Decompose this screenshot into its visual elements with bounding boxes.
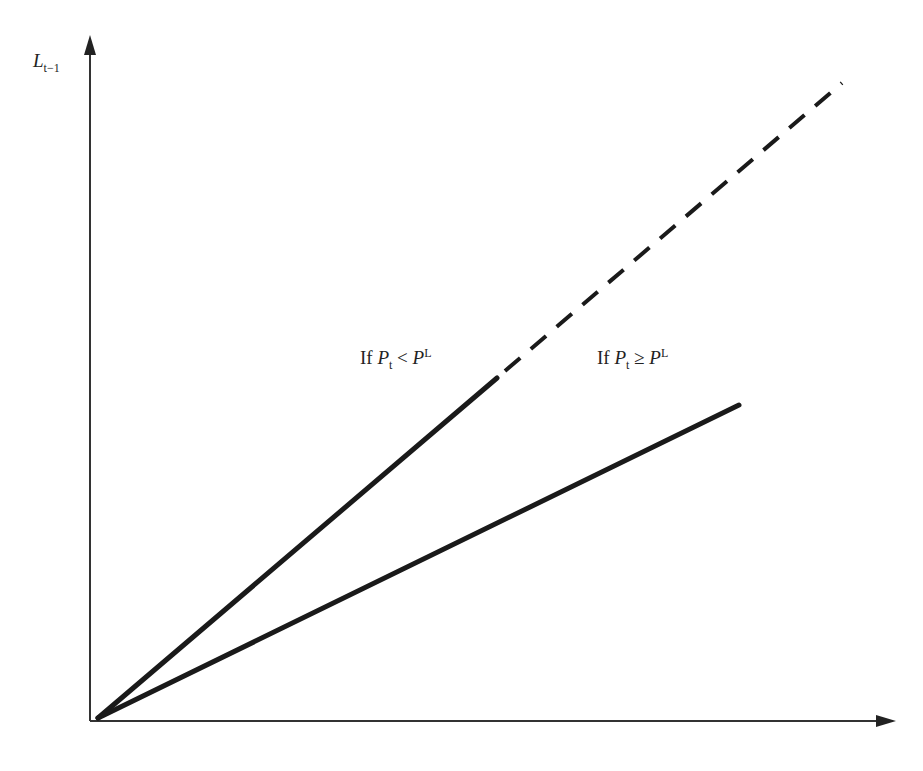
shallow-line-label: If Pt ≥ PL	[597, 346, 668, 373]
x-axis-arrow-icon	[876, 715, 896, 727]
steep-line-label: If Pt < PL	[360, 346, 432, 373]
shallow-line	[98, 405, 739, 718]
diagram-canvas	[0, 0, 923, 771]
y-axis	[84, 35, 96, 721]
steep-line	[98, 378, 497, 718]
y-axis-arrow-icon	[84, 35, 96, 55]
x-axis	[90, 715, 896, 727]
y-axis-label: Lt−1	[33, 50, 60, 76]
steep-line-extension	[505, 83, 842, 371]
